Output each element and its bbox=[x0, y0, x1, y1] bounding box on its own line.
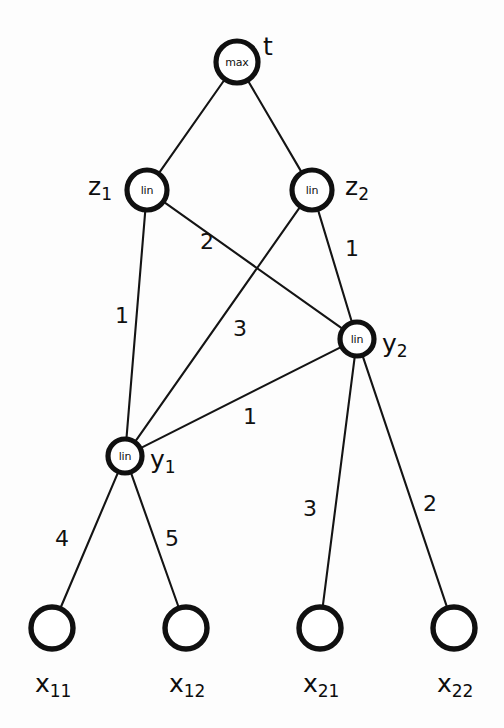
node-name-t: t bbox=[263, 32, 273, 61]
edge-y2-x22 bbox=[363, 356, 447, 607]
edge-z1-y1 bbox=[126, 211, 145, 438]
node-op-label-t: max bbox=[225, 56, 249, 69]
node-z2[interactable]: linz2 bbox=[292, 170, 369, 210]
node-op-label-z2: lin bbox=[306, 184, 319, 197]
edge-z2-y2 bbox=[318, 210, 352, 322]
edge-weight-y2-x22: 2 bbox=[423, 491, 437, 516]
edge-weight-y1-x11: 4 bbox=[55, 526, 69, 551]
node-name-subscript-y2: 2 bbox=[397, 341, 408, 361]
node-op-label-z1: lin bbox=[141, 184, 154, 197]
edge-weight-y2-y1: 1 bbox=[243, 404, 257, 429]
node-name-subscript-y1: 1 bbox=[165, 457, 176, 477]
edge-y1-x11 bbox=[61, 473, 118, 608]
graph-canvas: maxtlinz1linz2liny1liny2x11x12x21x22 123… bbox=[0, 0, 504, 728]
node-name-subscript-x12: 12 bbox=[184, 681, 206, 701]
nodes-layer: maxtlinz1linz2liny1liny2x11x12x21x22 bbox=[31, 32, 475, 701]
computation-graph: maxtlinz1linz2liny1liny2x11x12x21x22 123… bbox=[0, 0, 504, 728]
edge-weight-z1-y1: 1 bbox=[115, 303, 129, 328]
node-x21[interactable]: x21 bbox=[299, 607, 341, 701]
node-op-label-y1: lin bbox=[119, 450, 132, 463]
node-name-subscript-x11: 11 bbox=[50, 681, 72, 701]
edge-weight-y2-x21: 3 bbox=[303, 496, 317, 521]
edge-t-z2 bbox=[248, 81, 301, 172]
node-op-label-y2: lin bbox=[351, 333, 364, 346]
node-x11[interactable]: x11 bbox=[31, 607, 73, 701]
node-circle-x21[interactable] bbox=[299, 607, 341, 649]
edge-z1-y2 bbox=[164, 202, 342, 328]
node-t[interactable]: maxt bbox=[216, 32, 273, 83]
node-name-x22: x22 bbox=[437, 669, 473, 701]
node-name-y2: y2 bbox=[382, 329, 408, 361]
node-x22[interactable]: x22 bbox=[433, 607, 475, 701]
node-name-subscript-z2: 2 bbox=[358, 184, 369, 204]
node-name-x11: x11 bbox=[35, 669, 71, 701]
node-x12[interactable]: x12 bbox=[165, 607, 207, 701]
node-circle-x11[interactable] bbox=[31, 607, 73, 649]
node-name-x21: x21 bbox=[303, 669, 339, 701]
edge-weight-y1-x12: 5 bbox=[165, 526, 179, 551]
node-name-z1: z1 bbox=[88, 172, 112, 204]
edge-t-z1 bbox=[159, 80, 224, 173]
edge-weight-z1-y2: 2 bbox=[200, 229, 214, 254]
node-name-x12: x12 bbox=[169, 669, 205, 701]
node-circle-x22[interactable] bbox=[433, 607, 475, 649]
edge-weight-z2-y2: 1 bbox=[345, 236, 359, 261]
edge-y2-x21 bbox=[323, 357, 355, 606]
edge-z2-y1 bbox=[135, 207, 300, 441]
node-name-subscript-z1: 1 bbox=[101, 184, 112, 204]
edge-weights-layer: 123114532 bbox=[55, 229, 437, 551]
node-name-z2: z2 bbox=[345, 172, 369, 204]
edge-y2-y1 bbox=[141, 347, 341, 448]
node-name-subscript-x22: 22 bbox=[452, 681, 474, 701]
edge-weight-z2-y1: 3 bbox=[233, 316, 247, 341]
node-y2[interactable]: liny2 bbox=[340, 322, 408, 361]
node-y1[interactable]: liny1 bbox=[108, 439, 176, 477]
node-z1[interactable]: linz1 bbox=[88, 170, 167, 210]
node-name-subscript-x21: 21 bbox=[318, 681, 340, 701]
node-circle-x12[interactable] bbox=[165, 607, 207, 649]
node-name-y1: y1 bbox=[150, 445, 176, 477]
